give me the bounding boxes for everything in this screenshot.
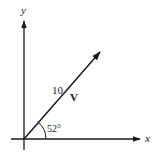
y-axis-label: y (20, 4, 26, 16)
magnitude-label: 10 (52, 84, 64, 96)
angle-label: 52° (47, 123, 61, 134)
x-axis-label: x (144, 132, 150, 144)
vector-name-label: V (70, 91, 78, 103)
vector-diagram: y x 10 V 52° (0, 0, 160, 157)
angle-arc (38, 122, 47, 139)
